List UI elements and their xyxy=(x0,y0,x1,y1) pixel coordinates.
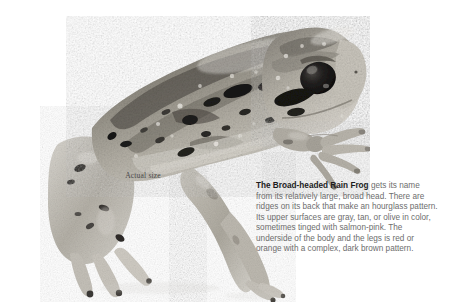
actual-size-caption: Actual size xyxy=(103,171,183,180)
frog-photograph xyxy=(40,16,370,302)
species-description: The Broad-headed Rain Frog gets its name… xyxy=(256,181,438,255)
frog-illustration xyxy=(40,16,370,302)
frog-head xyxy=(262,23,366,134)
species-description-body: gets its name from its relatively large,… xyxy=(256,181,438,253)
species-name-lead: The Broad-headed Rain Frog xyxy=(256,181,369,190)
